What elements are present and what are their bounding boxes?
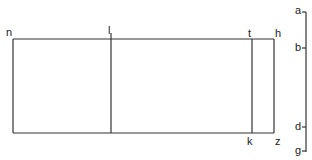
label-d: d <box>295 120 301 132</box>
label-l: l <box>108 24 110 36</box>
label-a: a <box>295 4 302 16</box>
diagram-canvas: n l t h k z a b d g <box>0 0 312 160</box>
label-t: t <box>248 27 251 39</box>
label-b: b <box>295 41 301 53</box>
label-k: k <box>247 135 253 147</box>
label-z: z <box>275 135 281 147</box>
label-h: h <box>275 27 281 39</box>
label-g: g <box>295 144 301 156</box>
label-n: n <box>6 26 12 38</box>
